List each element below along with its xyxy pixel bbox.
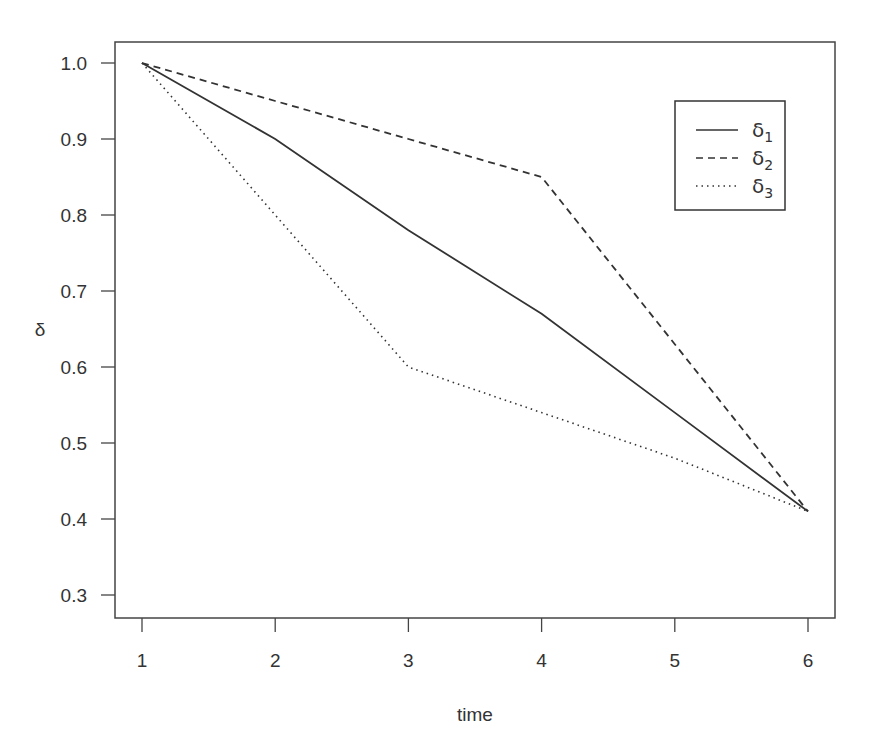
x-tick-label: 1 <box>137 650 148 671</box>
x-tick-label: 5 <box>670 650 681 671</box>
x-tick-label: 3 <box>403 650 414 671</box>
x-axis: 123456 <box>137 618 814 671</box>
y-axis-label: δ <box>35 319 46 340</box>
y-tick-label: 0.7 <box>61 281 87 302</box>
x-axis-label: time <box>457 704 493 725</box>
y-tick-label: 0.9 <box>61 129 87 150</box>
line-chart: g 0.30.40.50.60.70.80.91.0 123456 δ time… <box>0 0 870 753</box>
y-axis: 0.30.40.50.60.70.80.91.0 <box>61 53 115 606</box>
y-tick-label: 0.3 <box>61 585 87 606</box>
x-tick-label: 2 <box>270 650 281 671</box>
x-tick-label: 4 <box>536 650 547 671</box>
y-tick-label: 0.4 <box>61 509 88 530</box>
legend: δ1δ2δ3 <box>675 101 785 210</box>
y-tick-label: 1.0 <box>61 53 87 74</box>
y-tick-label: 0.5 <box>61 433 87 454</box>
y-tick-label: 0.6 <box>61 357 87 378</box>
x-tick-label: 6 <box>803 650 814 671</box>
y-tick-label: 0.8 <box>61 205 87 226</box>
